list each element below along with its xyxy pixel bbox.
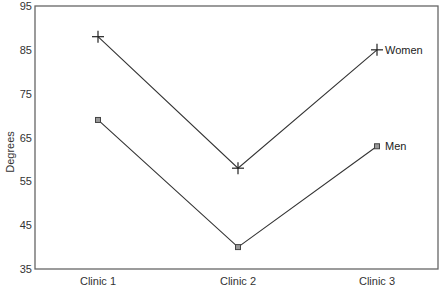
series-label: Men bbox=[385, 140, 406, 152]
x-tick-label: Clinic 1 bbox=[80, 275, 116, 287]
series-line bbox=[98, 120, 377, 247]
y-tick-label: 65 bbox=[20, 132, 32, 144]
x-tick-label: Clinic 3 bbox=[359, 275, 395, 287]
series-men: Men bbox=[96, 117, 407, 249]
y-tick-label: 75 bbox=[20, 88, 32, 100]
square-marker-icon bbox=[375, 144, 380, 149]
square-marker-icon bbox=[236, 245, 241, 250]
series-line bbox=[98, 37, 377, 169]
series-label: Women bbox=[385, 44, 423, 56]
series-women: Women bbox=[92, 31, 423, 175]
y-tick-label: 95 bbox=[20, 0, 32, 12]
y-tick-label: 85 bbox=[20, 44, 32, 56]
square-marker-icon bbox=[96, 117, 101, 122]
line-chart: 35455565758595 Clinic 1Clinic 2Clinic 3 … bbox=[0, 0, 443, 291]
y-axis-label: Degrees bbox=[4, 131, 16, 173]
y-tick-label: 35 bbox=[20, 263, 32, 275]
y-tick-label: 45 bbox=[20, 219, 32, 231]
y-tick-label: 55 bbox=[20, 175, 32, 187]
x-tick-label: Clinic 2 bbox=[220, 275, 256, 287]
